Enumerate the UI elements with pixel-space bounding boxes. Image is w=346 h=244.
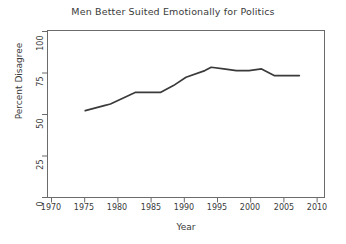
data-series-line <box>85 67 299 110</box>
chart-figure: Men Better Suited Emotionally for Politi… <box>0 0 346 244</box>
x-axis-ticks <box>52 198 318 203</box>
plot-area <box>0 0 346 244</box>
y-axis-ticks <box>42 32 48 198</box>
plot-frame <box>48 31 325 198</box>
